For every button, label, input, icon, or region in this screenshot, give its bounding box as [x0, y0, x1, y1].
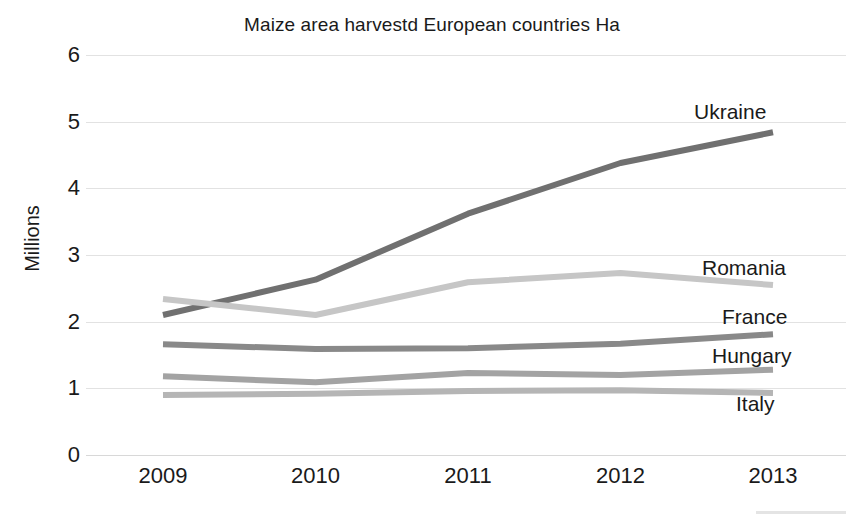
series-label-hungary: Hungary [712, 345, 791, 366]
series-line-italy [163, 390, 773, 395]
x-tick-2010: 2010 [256, 463, 376, 489]
x-tick-2011: 2011 [408, 463, 528, 489]
x-tick-2009: 2009 [103, 463, 223, 489]
x-tick-2013: 2013 [713, 463, 833, 489]
series-line-france [163, 334, 773, 349]
series-line-ukraine [163, 132, 773, 315]
scan-artifact [756, 511, 846, 514]
chart-container: Maize area harvestd European countries H… [0, 0, 864, 517]
x-axis-tick-labels: 2009 2010 2011 2012 2013 [86, 463, 846, 497]
series-label-france: France [722, 306, 787, 327]
series-label-ukraine: Ukraine [694, 101, 766, 122]
series-label-italy: Italy [736, 393, 775, 414]
series-label-romania: Romania [702, 257, 786, 278]
series-line-hungary [163, 370, 773, 383]
x-tick-2012: 2012 [561, 463, 681, 489]
